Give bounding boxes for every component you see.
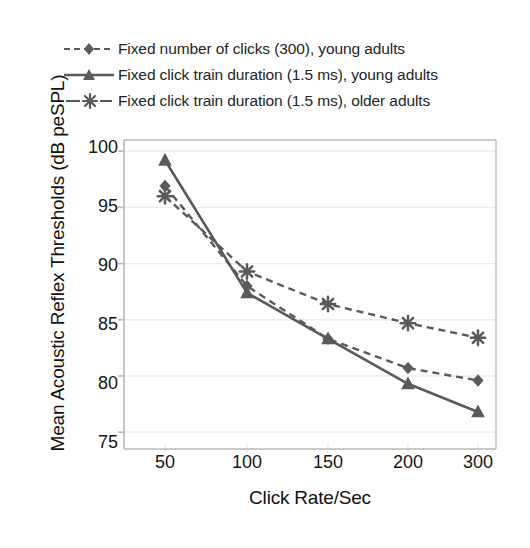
data-series-layer <box>158 153 485 417</box>
axis-frame <box>118 140 496 449</box>
series-0 <box>159 180 483 387</box>
grid-lines <box>124 151 496 453</box>
series-1 <box>158 153 485 417</box>
plot-area <box>0 0 530 548</box>
chart-figure: Fixed number of clicks (300), young adul… <box>0 0 530 548</box>
series-2 <box>158 189 485 345</box>
